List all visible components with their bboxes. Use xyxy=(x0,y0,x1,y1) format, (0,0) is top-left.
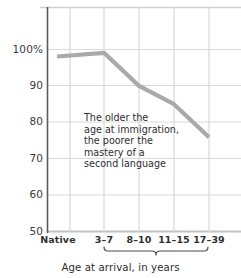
x-axis-brace xyxy=(104,247,208,255)
chart-figure: 100% 90 80 70 60 50 Native 3–7 8–10 11–1… xyxy=(0,0,241,278)
y-tick-label-80: 80 xyxy=(0,115,43,127)
x-axis-caption: Age at arrival, in years xyxy=(0,262,241,273)
y-tick-label-60: 60 xyxy=(0,188,43,200)
y-tick-label-100: 100% xyxy=(0,43,43,55)
x-tick-label-native: Native xyxy=(36,234,80,245)
y-tick-label-70: 70 xyxy=(0,152,43,164)
x-tick-label-17-39: 17–39 xyxy=(187,234,231,245)
chart-annotation: The older the age at immigration, the po… xyxy=(84,112,188,170)
y-tick-label-90: 90 xyxy=(0,79,43,91)
